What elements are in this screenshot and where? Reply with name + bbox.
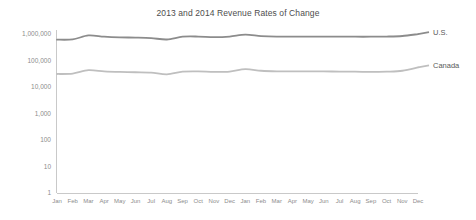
x-tick-label: Nov [397, 198, 408, 204]
x-tick-label: Apr [99, 198, 108, 204]
x-tick-label: Dec [413, 198, 424, 204]
series-inline-labels: U.S.Canada [433, 28, 460, 70]
y-tick-label: 1,000 [35, 110, 52, 117]
series-line-us [57, 34, 418, 40]
x-tick-label: Dec [224, 198, 235, 204]
x-tick-label: Sep [177, 198, 188, 204]
series-label-us: U.S. [433, 28, 448, 37]
x-tick-label: Feb [256, 198, 267, 204]
x-tick-label: Aug [350, 198, 361, 204]
series-line-canada [57, 67, 418, 74]
x-tick-label: Oct [382, 198, 392, 204]
y-tick-label: 100,000 [28, 57, 52, 64]
x-tick-label: Jul [147, 198, 155, 204]
x-tick-label: Mar [272, 198, 282, 204]
y-tick-label: 1,000,000 [22, 30, 51, 37]
x-tick-label: May [114, 198, 125, 204]
x-axis-tick-labels: JanFebMarAprMayJunJulAugSepOctNovDecJanF… [52, 198, 423, 204]
x-tick-label: Feb [68, 198, 79, 204]
x-tick-label: Jun [319, 198, 329, 204]
series-label-connector [418, 32, 429, 34]
series-label-connector [418, 65, 429, 67]
x-tick-label: Jan [52, 198, 62, 204]
x-tick-label: Sep [366, 198, 377, 204]
x-tick-label: Nov [209, 198, 220, 204]
y-axis-tick-labels: 1,000,000100,00010,0001,000100101 [22, 30, 51, 196]
x-tick-label: May [302, 198, 313, 204]
y-tick-label: 10,000 [31, 83, 51, 90]
x-tick-label: Oct [194, 198, 204, 204]
x-tick-label: Aug [162, 198, 173, 204]
x-tick-label: Jun [131, 198, 141, 204]
x-tick-label: Mar [83, 198, 93, 204]
revenue-rates-line-chart: 2013 and 2014 Revenue Rates of Change 1,… [0, 0, 476, 220]
x-tick-label: Jan [241, 198, 251, 204]
y-tick-label: 10 [44, 163, 52, 170]
x-tick-label: Jul [336, 198, 344, 204]
series-label-canada: Canada [433, 61, 460, 70]
chart-plot-area: 1,000,000100,00010,0001,000100101 JanFeb… [0, 0, 476, 220]
series-lines [57, 32, 429, 74]
y-tick-label: 100 [40, 136, 51, 143]
x-tick-label: Apr [288, 198, 297, 204]
y-tick-label: 1 [47, 189, 51, 196]
